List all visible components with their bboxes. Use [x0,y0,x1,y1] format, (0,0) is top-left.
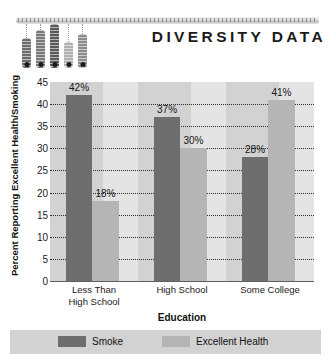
bar-group: 28%41% [226,82,314,281]
thermometer-bulb [80,62,85,67]
bar-group: 42%18% [50,82,138,281]
y-tick-label: 0 [18,276,48,287]
thermometer-bulb [52,62,57,67]
thermometer-bulb [66,62,71,67]
bar-excellent-health [180,148,206,281]
y-tick-label: 10 [18,231,48,242]
thermometer-drop-line [40,24,41,30]
y-tick-label: 15 [18,209,48,220]
thermometer-4-icon [64,42,73,68]
bar-smoke [66,95,92,281]
x-category-label: Less ThanHigh School [50,284,138,307]
x-axis-title: Education [50,312,314,323]
y-axis-ticks: 051015202530354045 [18,82,48,281]
chart-legend: SmokeExcellent Health [10,330,321,354]
bar-value-label: 18% [95,188,115,199]
legend-swatch-icon [162,336,190,347]
x-category-label: High School [138,284,226,296]
bar-smoke [242,157,268,281]
legend-label: Smoke [92,336,123,347]
thermometer-5-icon [78,34,87,68]
x-axis-line [50,281,314,282]
thermometer-drop-line [26,24,27,38]
bar-excellent-health [268,100,294,281]
page-header: DIVERSITY DATA [0,0,331,74]
ruler-bar-icon [16,17,319,24]
thermometer-3-icon [50,24,59,68]
x-category-label: Some College [226,284,314,296]
x-category-line: High School [138,284,226,296]
thermometer-drop-line [82,24,83,34]
y-tick-label: 45 [18,77,48,88]
x-category-line: Some College [226,284,314,296]
bar-value-label: 30% [183,135,203,146]
bar-value-label: 28% [245,144,265,155]
bar-smoke [154,117,180,281]
bar-value-label: 37% [157,104,177,115]
thermometer-1-icon [22,38,31,68]
thermometer-2-icon [36,30,45,68]
bar-value-label: 41% [271,87,291,98]
ruler-ticks [18,18,317,22]
thermometer-bulb [38,62,43,67]
bar-group: 37%30% [138,82,226,281]
page-title: DIVERSITY DATA [130,28,326,46]
y-tick-label: 25 [18,165,48,176]
legend-swatch-icon [58,336,86,347]
chart-container: Percent Reporting Excellent Health/Smoki… [0,74,331,360]
y-tick-label: 35 [18,121,48,132]
x-category-line: High School [50,296,138,308]
y-tick-label: 20 [18,187,48,198]
bar-excellent-health [92,201,118,281]
legend-label: Excellent Health [196,336,268,347]
y-tick-label: 5 [18,253,48,264]
legend-entry-excellent-health[interactable]: Excellent Health [162,336,268,347]
y-tick-label: 30 [18,143,48,154]
thermometer-bulb [24,62,29,67]
thermometer-drop-line [68,24,69,42]
plot-area: 42%18%37%30%28%41% [50,82,314,281]
y-tick-label: 40 [18,99,48,110]
legend-entry-smoke[interactable]: Smoke [58,336,123,347]
bar-value-label: 42% [69,82,89,93]
x-category-line: Less Than [50,284,138,296]
